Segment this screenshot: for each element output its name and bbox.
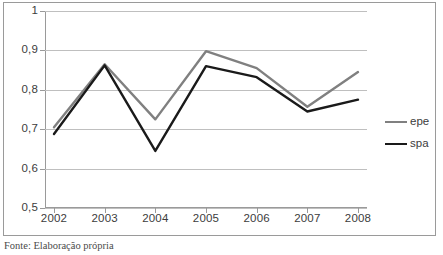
x-axis-tick-label: 2002: [41, 212, 67, 224]
legend-swatch-spa: [385, 143, 407, 145]
y-axis-tick-label: 0,9: [21, 43, 38, 55]
series-line-spa: [54, 65, 358, 151]
series-line-epe: [54, 51, 358, 127]
x-axis-tick-label: 2007: [294, 212, 320, 224]
legend-label: spa: [410, 138, 429, 150]
chart-legend: epespa: [385, 111, 437, 155]
y-axis-tick-label: 0,7: [21, 122, 38, 134]
chart-frame: 10,90,80,70,60,5 20022003200420052006200…: [3, 2, 436, 236]
x-axis-tick-label: 2008: [345, 212, 371, 224]
chart-page: 10,90,80,70,60,5 20022003200420052006200…: [0, 0, 443, 255]
legend-item-spa: spa: [385, 133, 437, 155]
y-axis-tick-label: 0,6: [21, 162, 38, 174]
figure-source-caption: Fonte: Elaboração própria: [4, 240, 114, 251]
x-axis-labels: 2002200320042005200620072008: [45, 212, 367, 230]
x-axis-tick-label: 2004: [142, 212, 168, 224]
legend-label: epe: [410, 116, 429, 128]
plot-area: [45, 11, 367, 208]
legend-swatch-epe: [385, 121, 407, 123]
y-axis-labels: 10,90,80,70,60,5: [4, 11, 38, 208]
x-axis-tick-label: 2005: [193, 212, 219, 224]
y-axis-tick-label: 1: [31, 4, 38, 16]
y-axis-tick-label: 0,8: [21, 83, 38, 95]
y-axis-tick-label: 0,5: [21, 201, 38, 213]
series-lines: [45, 11, 367, 208]
y-axis-tick: [40, 208, 45, 209]
x-axis-tick-label: 2006: [243, 212, 269, 224]
legend-item-epe: epe: [385, 111, 437, 133]
x-axis-tick-label: 2003: [91, 212, 117, 224]
